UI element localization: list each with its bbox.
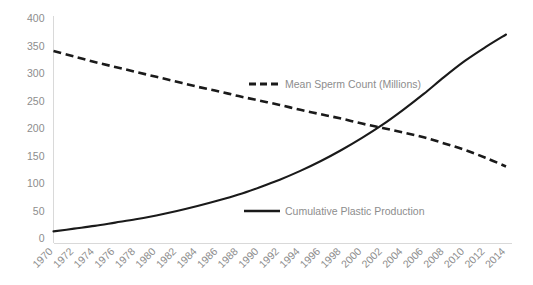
line-chart: 050100150200250300350400 197019721974197… xyxy=(0,0,533,285)
chart-background xyxy=(0,0,533,285)
y-tick-label: 100 xyxy=(27,177,45,189)
y-tick-label: 300 xyxy=(27,67,45,79)
y-tick-label: 350 xyxy=(27,40,45,52)
chart-container: 050100150200250300350400 197019721974197… xyxy=(0,0,533,285)
y-tick-label: 0 xyxy=(39,232,45,244)
legend-label-mean-sperm-count: Mean Sperm Count (Millions) xyxy=(285,78,421,90)
y-tick-label: 50 xyxy=(33,205,45,217)
legend-label-cumulative-plastic-production: Cumulative Plastic Production xyxy=(285,205,425,217)
y-tick-label: 200 xyxy=(27,122,45,134)
y-tick-label: 150 xyxy=(27,150,45,162)
y-tick-label: 400 xyxy=(27,12,45,24)
y-tick-label: 250 xyxy=(27,95,45,107)
